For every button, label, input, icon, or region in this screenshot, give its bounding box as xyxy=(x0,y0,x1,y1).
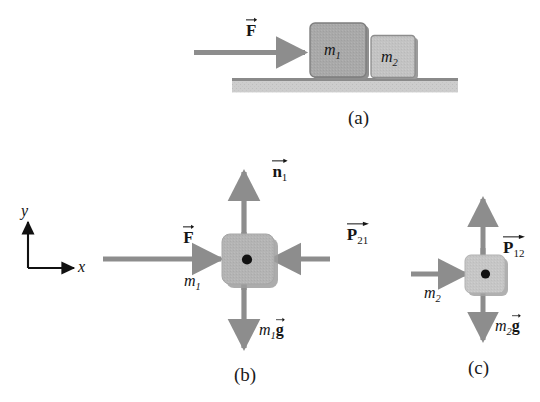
axis-label-x: x xyxy=(78,259,85,275)
applied-force-symbol: F xyxy=(246,21,256,40)
block-m1-symbol: m xyxy=(324,41,336,58)
ground-surface xyxy=(232,78,458,92)
applied-force-symbol-b: F xyxy=(183,228,193,247)
weight-m1-mass-symbol: m1 xyxy=(259,321,276,338)
weight-m2g-label: m2g xyxy=(495,318,520,338)
fbd-mass-m2-subscript: 2 xyxy=(436,293,441,304)
gravity-symbol: g xyxy=(276,321,284,338)
block-m1-label: m1 xyxy=(324,42,341,62)
figure-canvas: F m1 m2 (a) y x n1 F xyxy=(0,0,540,402)
contact-force-P12-label: P12 xyxy=(503,239,524,259)
weight-m1g-label: m1g xyxy=(259,322,284,342)
diagram-vector-layer xyxy=(0,0,540,402)
fbd-mass-m1-label: m1 xyxy=(184,273,201,293)
applied-force-label-b: F xyxy=(183,229,193,246)
panel-c-tag: (c) xyxy=(468,358,489,377)
contact-force-P21-symbol: P xyxy=(347,225,357,244)
center-of-mass-dot-b xyxy=(242,254,252,264)
weight-m2-mass-symbol: m2 xyxy=(495,317,512,334)
fbd-mass-m2-symbol: m xyxy=(424,284,436,301)
block-m2-subscript: 2 xyxy=(393,57,398,68)
gravity-symbol: g xyxy=(512,317,520,334)
contact-force-P12-symbol: P xyxy=(503,238,513,257)
panel-b-tag: (b) xyxy=(234,365,256,384)
panel-b-graphics xyxy=(103,172,330,348)
normal-force-n1-subscript: 1 xyxy=(282,171,288,183)
normal-force-n1-symbol: n xyxy=(272,162,281,181)
weight-m2-m: m xyxy=(495,317,507,334)
fbd-mass-m1-subscript: 1 xyxy=(196,281,201,292)
center-of-mass-dot-c xyxy=(481,269,490,278)
panel-a-tag: (a) xyxy=(348,108,369,127)
fbd-mass-m1-symbol: m xyxy=(184,272,196,289)
normal-force-n1-label: n1 xyxy=(272,163,287,183)
axis-label-y: y xyxy=(21,203,28,219)
fbd-mass-m2-label: m2 xyxy=(424,285,441,305)
gravity-vector-g: g xyxy=(512,318,520,334)
coordinate-axes-graphics xyxy=(28,222,74,268)
weight-m1-m: m xyxy=(259,321,271,338)
contact-force-P21-subscript: 21 xyxy=(357,234,368,246)
block-m2-label: m2 xyxy=(381,49,398,69)
applied-force-label-a: F xyxy=(246,22,256,39)
block-m1-subscript: 1 xyxy=(336,50,341,61)
block-m2-symbol: m xyxy=(381,48,393,65)
contact-force-P21-label: P21 xyxy=(347,226,368,246)
gravity-vector-g: g xyxy=(276,322,284,338)
contact-force-P12-subscript: 12 xyxy=(514,247,525,259)
panel-c-graphics xyxy=(411,199,508,340)
